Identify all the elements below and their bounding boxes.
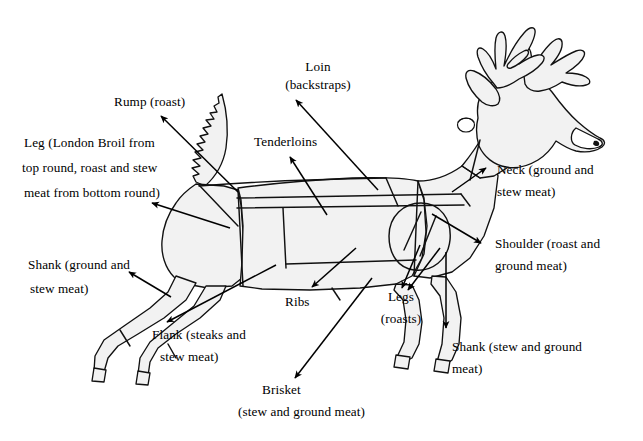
- label-loin-line1: Loin: [263, 58, 373, 75]
- arrow-shank-left: [129, 272, 171, 297]
- hoof-rear-far: [136, 371, 150, 385]
- label-loin-line2: (backstraps): [263, 76, 373, 93]
- label-brisket-line1: Brisket: [262, 381, 301, 398]
- label-brisket-line2: (stew and ground meat): [238, 403, 365, 420]
- label-tenderloins: Tenderloins: [254, 133, 317, 150]
- label-shank-front-line1: Shank (stew and ground: [452, 338, 582, 355]
- label-flank-line2: stew meat): [160, 348, 219, 365]
- label-legs-line1: Legs: [368, 288, 434, 305]
- label-ribs: Ribs: [285, 293, 310, 310]
- label-rump: Rump (roast): [114, 93, 185, 110]
- label-leg-line1: Leg (London Broil from: [24, 134, 155, 151]
- hoof-front-far: [434, 359, 450, 373]
- label-shank-front-line2: meat): [452, 360, 483, 377]
- cut-line-brisket: [332, 288, 340, 300]
- label-shank-hind-line2: stew meat): [30, 280, 89, 297]
- label-shank-hind-line1: Shank (ground and: [28, 256, 130, 273]
- hindquarter-region: [162, 184, 244, 288]
- deer-tail: [192, 94, 227, 186]
- label-leg-line3: meat from bottom round): [24, 184, 160, 201]
- label-neck-line1: Neck (ground and: [497, 161, 594, 178]
- hoof-rear-near: [92, 368, 106, 382]
- label-flank-line1: Flank (steaks and: [152, 326, 246, 343]
- hoof-front-near: [394, 355, 410, 369]
- label-shoulder-line1: Shoulder (roast and: [495, 235, 600, 252]
- label-legs-line2: (roasts): [368, 310, 434, 327]
- label-neck-line2: stew meat): [497, 183, 556, 200]
- deer-butchering-diagram: Rump (roast) Loin (backstraps) Leg (Lond…: [0, 0, 643, 441]
- label-leg-line2: top round, roast and stew: [22, 159, 157, 176]
- label-shoulder-line2: ground meat): [495, 257, 567, 274]
